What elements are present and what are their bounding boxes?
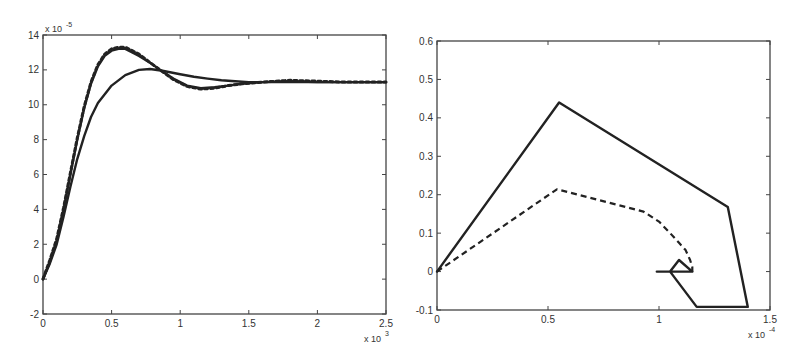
y-tick-label: 0.5 <box>419 74 433 85</box>
series-line <box>437 103 748 307</box>
x-multiplier-exponent: -4 <box>769 326 775 333</box>
x-tick-label: 1 <box>656 314 662 325</box>
y-tick-label: 0.3 <box>419 151 433 162</box>
right-chart: 00.511.5-0.100.10.20.30.40.50.6x 10-4 <box>0 0 798 354</box>
y-tick-label: 0.4 <box>419 112 433 123</box>
y-tick-label: 0.1 <box>419 228 433 239</box>
plot-frame <box>437 41 770 310</box>
x-multiplier: x 10 <box>748 330 765 340</box>
series-line <box>437 189 692 271</box>
y-tick-label: -0.1 <box>416 305 434 316</box>
x-tick-label: 1.5 <box>763 314 777 325</box>
figure: 00.511.522.5-202468101214x 103x 10-5 00.… <box>0 0 798 354</box>
y-tick-label: 0.6 <box>419 36 433 47</box>
y-tick-label: 0.2 <box>419 189 433 200</box>
y-tick-label: 0 <box>427 266 433 277</box>
x-tick-label: 0 <box>434 314 440 325</box>
x-tick-label: 0.5 <box>541 314 555 325</box>
